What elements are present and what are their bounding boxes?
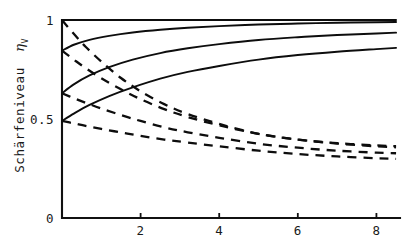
chart-container: 2468 00.51 Schärfeniveau η V [0,0,410,243]
curve-solid-3 [62,33,396,94]
y-tick-label-1: 1 [46,13,54,28]
curve-solid-4 [62,48,396,121]
y-axis-title-text: Schärfeniveau [12,67,27,173]
curve-dashed-4 [62,121,396,159]
x-tick-label-4: 4 [215,223,223,238]
x-axis-tick-labels: 2468 [137,223,381,238]
chart-axes [62,20,400,218]
line-chart: 2468 00.51 Schärfeniveau η V [0,0,410,243]
x-tick-label-6: 6 [294,223,302,238]
y-axis-tick-labels: 00.51 [30,13,54,226]
curve-dashed-1 [62,20,396,146]
y-tick-label-0-5: 0.5 [30,112,54,127]
y-tick-label-0: 0 [46,211,54,226]
y-axis-symbol: η V [11,38,30,52]
y-axis-title: Schärfeniveau [12,67,27,173]
curve-solid-2 [62,22,396,51]
eta-subscript: V [20,38,30,43]
x-tick-label-2: 2 [137,223,145,238]
dashed-curve-group [62,20,396,159]
x-tick-label-8: 8 [372,223,380,238]
eta-symbol: η [11,44,27,52]
